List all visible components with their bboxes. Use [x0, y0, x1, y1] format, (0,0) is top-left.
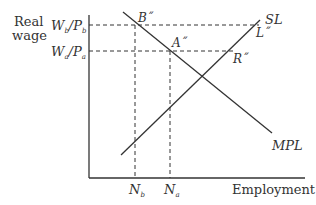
wage-b-label: Wb/Pb	[51, 18, 87, 35]
point-b-label: B˝	[137, 11, 154, 25]
emp-a-label: Na	[163, 182, 180, 199]
point-a-label: A˝	[171, 36, 188, 50]
sl-curve	[121, 20, 260, 155]
labor-market-diagram: Real wage Wb/Pb Wa/Pa Nb Na Employment B…	[0, 0, 316, 205]
svg-text:Nb: Nb	[128, 182, 145, 199]
svg-text:Wa/Pa: Wa/Pa	[51, 44, 86, 61]
point-r-label: R˝	[232, 52, 249, 66]
mpl-curve-label: MPL	[271, 138, 303, 153]
x-axis-label: Employment	[232, 182, 316, 197]
y-axis-label-line1: Real	[14, 14, 43, 29]
y-axis-label-line2: wage	[12, 28, 47, 43]
wage-a-label: Wa/Pa	[51, 44, 86, 61]
svg-text:Wb/Pb: Wb/Pb	[51, 18, 87, 35]
point-l-label: L˝	[255, 26, 271, 40]
sl-curve-label: SL	[265, 12, 283, 27]
emp-b-label: Nb	[128, 182, 145, 199]
svg-text:Na: Na	[163, 182, 180, 199]
